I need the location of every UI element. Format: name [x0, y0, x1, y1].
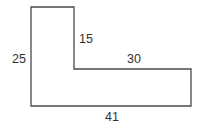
label-bottom-width: 41 — [105, 110, 119, 124]
label-left-height: 25 — [12, 52, 26, 66]
l-shape-diagram: 25 15 30 41 — [0, 0, 203, 133]
label-inner-horizontal: 30 — [127, 52, 141, 66]
l-shape-outline — [31, 7, 191, 106]
label-inner-vertical: 15 — [79, 32, 93, 46]
